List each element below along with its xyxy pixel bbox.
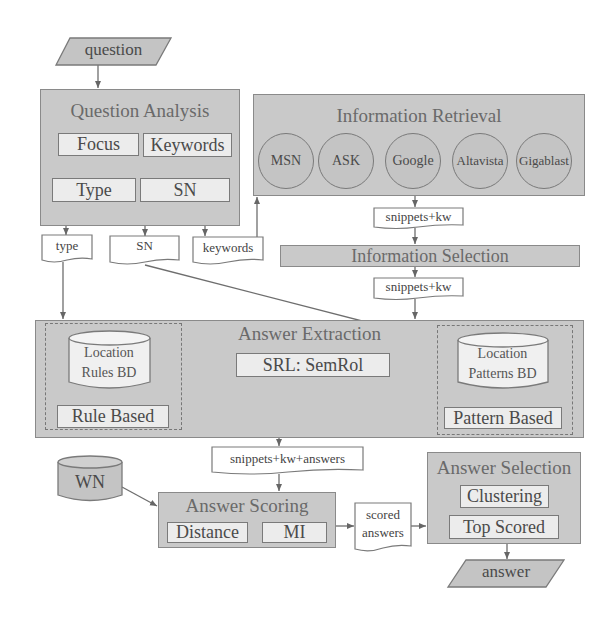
type-doc: type: [42, 236, 92, 256]
engine-altavista: Altavista: [452, 133, 508, 189]
answer-selection-title: Answer Selection: [428, 457, 580, 479]
engine-ask: ASK: [318, 133, 374, 189]
rule-based-box: Rule Based: [57, 405, 169, 428]
answer-scoring-title: Answer Scoring: [159, 495, 335, 517]
information-selection-title: Information Selection: [351, 246, 508, 267]
snippets-kw-answers-doc: snippets+kw+answers: [212, 449, 363, 469]
information-retrieval-title: Information Retrieval: [254, 105, 584, 127]
srl-semrol-box: SRL: SemRol: [236, 353, 390, 377]
scored-answers-doc: scored answers: [355, 506, 411, 542]
question-analysis-panel: Question Analysis: [40, 89, 240, 226]
sn-box: SN: [140, 178, 230, 202]
engine-msn: MSN: [258, 133, 314, 189]
engine-gigablast: Gigablast: [516, 133, 572, 189]
rules-db-label: Location Rules BD: [68, 343, 150, 383]
information-selection-panel: Information Selection: [280, 245, 580, 267]
question-analysis-title: Question Analysis: [41, 100, 239, 122]
mi-box: MI: [262, 522, 327, 543]
pattern-based-box: Pattern Based: [444, 407, 562, 429]
sn-doc: SN: [110, 236, 179, 256]
wn-label: WN: [57, 472, 123, 493]
type-box: Type: [52, 178, 136, 202]
distance-box: Distance: [167, 522, 248, 543]
focus-box: Focus: [58, 133, 139, 156]
patterns-db-label: Location Patterns BD: [457, 344, 548, 384]
snippets-kw-doc-2: snippets+kw: [374, 278, 463, 296]
keywords-doc: keywords: [193, 238, 263, 258]
answer-output: answer: [448, 562, 564, 582]
engine-google: Google: [385, 133, 441, 189]
question-input: question: [56, 40, 171, 60]
keywords-box: Keywords: [143, 133, 232, 157]
top-scored-box: Top Scored: [449, 515, 559, 539]
snippets-kw-doc-1: snippets+kw: [374, 208, 463, 226]
clustering-box: Clustering: [460, 485, 549, 508]
